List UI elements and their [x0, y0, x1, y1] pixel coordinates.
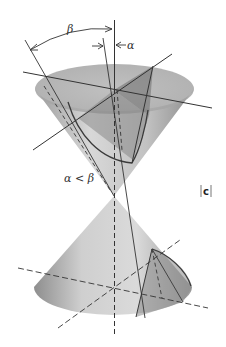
double-cone-diagram: β α α < β c — [0, 0, 226, 347]
condition-label: α < β — [64, 172, 94, 185]
panel-label: c — [203, 186, 209, 197]
beta-arrow-left-icon — [30, 44, 38, 50]
alpha-label: α — [127, 39, 135, 52]
beta-label: β — [66, 23, 73, 36]
alpha-arrow-left-icon — [92, 43, 103, 49]
alpha-arrow-right-icon — [116, 42, 126, 48]
